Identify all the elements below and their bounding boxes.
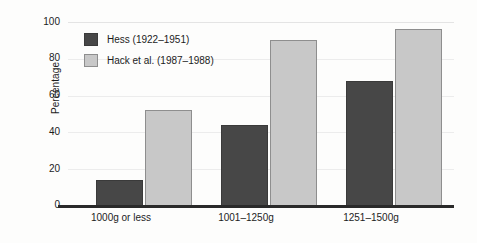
gridline-100	[68, 22, 454, 23]
bar-hess-1251-1500g[interactable]	[346, 81, 393, 206]
x-axis-baseline	[58, 205, 454, 208]
legend-item-hack[interactable]: Hack et al. (1987–1988)	[84, 50, 214, 71]
dark-swatch-icon	[84, 33, 98, 46]
chart-legend: Hess (1922–1951) Hack et al. (1987–1988)	[84, 29, 214, 71]
x-tick-label-1251-1500g: 1251–1500g	[296, 212, 446, 223]
legend-item-hess[interactable]: Hess (1922–1951)	[84, 29, 214, 50]
bar-hack-1251-1500g[interactable]	[395, 29, 442, 206]
y-tick-label-0: 0	[20, 200, 60, 210]
bar-hess-1001-1250g[interactable]	[221, 125, 268, 206]
bar-hess-1000g-or-less[interactable]	[96, 180, 143, 206]
light-swatch-icon	[84, 54, 98, 67]
bar-hack-1000g-or-less[interactable]	[145, 110, 192, 206]
legend-label-hack: Hack et al. (1987–1988)	[107, 55, 214, 66]
legend-label-hess: Hess (1922–1951)	[107, 34, 189, 45]
y-tick-label-80: 80	[20, 53, 60, 63]
y-tick-label-100: 100	[20, 17, 60, 27]
y-tick-label-40: 40	[20, 127, 60, 137]
y-tick-label-20: 20	[20, 164, 60, 174]
bar-chart-figure: Percentage 100 80 60 40 20 0 1000g	[0, 0, 477, 243]
y-tick-label-60: 60	[20, 90, 60, 100]
bar-hack-1001-1250g[interactable]	[270, 40, 317, 206]
